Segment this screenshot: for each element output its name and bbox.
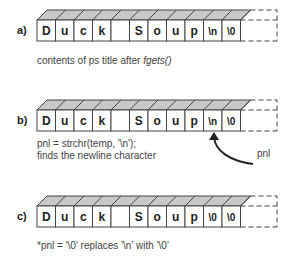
row-b-caption-1: pnl = strchr(temp, '\n'); xyxy=(37,138,136,150)
cell-char: u xyxy=(61,24,68,38)
cell-char: p xyxy=(191,114,198,128)
cell-char: o xyxy=(154,24,161,38)
array-cell xyxy=(111,110,130,131)
pointer-label: pnl xyxy=(257,148,270,160)
row-c-caption: *pnl = '\0' replaces '\n' with '\0' xyxy=(37,240,169,252)
cell-char: o xyxy=(154,210,161,224)
cell-char: p xyxy=(191,24,198,38)
array-cell xyxy=(111,20,130,41)
array-cell xyxy=(111,206,130,227)
cell-char: c xyxy=(80,24,87,38)
cell-char: c xyxy=(80,114,87,128)
cell-char: k xyxy=(98,114,105,128)
cell-char: u xyxy=(61,210,68,224)
arrow-head-icon xyxy=(209,132,219,140)
row-b-label: b) xyxy=(17,114,27,126)
row-b-caption-2: finds the newline character xyxy=(37,150,156,162)
array-top-face xyxy=(37,196,251,206)
cell-char: S xyxy=(135,210,143,224)
cell-char: p xyxy=(191,210,198,224)
cell-char: \n xyxy=(208,116,217,127)
string-array-diagram: DuckSoup\n\0DuckSoup\n\0DuckSoup\0\0 xyxy=(0,0,285,267)
cell-char: \0 xyxy=(227,116,236,127)
row-c-label: c) xyxy=(17,210,27,222)
cell-char: c xyxy=(80,210,87,224)
cell-char: k xyxy=(98,210,105,224)
cell-char: u xyxy=(61,114,68,128)
cell-char: k xyxy=(98,24,105,38)
cell-char: o xyxy=(154,114,161,128)
cell-char: \0 xyxy=(227,212,236,223)
cell-char: D xyxy=(42,114,51,128)
array-top-face xyxy=(37,100,251,110)
cell-char: u xyxy=(172,114,179,128)
cell-char: S xyxy=(135,24,143,38)
cell-char: \0 xyxy=(209,212,218,223)
cell-char: D xyxy=(42,24,51,38)
pointer-arrow xyxy=(214,137,253,164)
cell-char: \n xyxy=(208,26,217,37)
cell-char: D xyxy=(42,210,51,224)
cell-char: \0 xyxy=(227,26,236,37)
cell-char: S xyxy=(135,114,143,128)
cell-char: u xyxy=(172,24,179,38)
cell-char: u xyxy=(172,210,179,224)
array-top-face xyxy=(37,10,251,20)
row-a-caption: contents of ps title after fgets() xyxy=(37,55,172,67)
row-a-label: a) xyxy=(17,24,27,36)
